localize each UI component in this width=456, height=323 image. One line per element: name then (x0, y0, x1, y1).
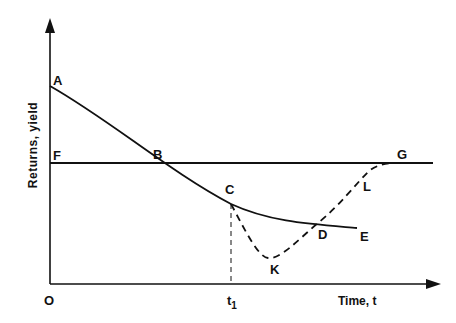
recovery-curve-CKDLG (231, 163, 402, 258)
diagram-canvas (0, 0, 456, 323)
point-label-d: D (318, 228, 327, 241)
point-label-b: B (153, 148, 162, 161)
point-label-g: G (397, 148, 407, 161)
x-axis-label: Time, t (338, 295, 376, 307)
axes (50, 28, 432, 284)
y-axis-label: Returns, yield (26, 90, 40, 200)
x-axis-arrow-icon (426, 279, 441, 289)
point-label-e: E (360, 230, 369, 243)
origin-label: O (44, 294, 54, 307)
point-label-k: K (270, 263, 279, 276)
point-label-c: C (225, 183, 234, 196)
y-axis-arrow-icon (45, 18, 55, 33)
t1-label-subscript: 1 (231, 300, 237, 311)
point-label-a: A (53, 74, 62, 87)
point-label-l: L (363, 180, 371, 193)
t1-label: t1 (227, 294, 237, 311)
point-label-f: F (53, 149, 61, 162)
declining-returns-curve-ABCDE (50, 86, 357, 228)
